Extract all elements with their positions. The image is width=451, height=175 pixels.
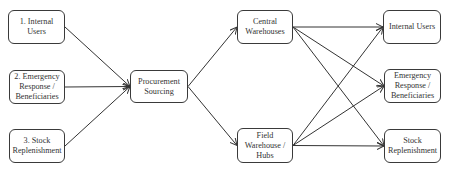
node-internal-users-destination: Internal Users: [383, 10, 441, 44]
node-stock-replenishment-destination: Stock Replenishment: [384, 129, 441, 163]
node-internal-users-source: 1. Internal Users: [8, 10, 65, 44]
node-central-warehouses: Central Warehouses: [237, 10, 293, 44]
node-stock-replenishment-source: 3. Stock Replenishment: [9, 129, 65, 163]
edge-field-to-stock-dst: [293, 146, 384, 147]
edge-central-to-emerg-dst: [293, 27, 384, 86]
node-procurement-sourcing: Procurement Sourcing: [130, 70, 188, 103]
edge-procure-to-field: [188, 87, 237, 146]
edge-internal-src-to-procure: [65, 27, 130, 87]
edge-stock-src-to-procure: [65, 87, 130, 147]
node-emergency-response-destination: Emergency Response / Beneficiaries: [384, 69, 441, 103]
node-field-warehouse-hubs: Field Warehouse / Hubs: [237, 128, 293, 163]
edge-field-to-emerg-dst: [293, 86, 384, 146]
edge-emerg-src-to-procure: [65, 87, 130, 88]
node-emergency-response-source: 2. Emergency Response / Beneficiaries: [9, 70, 65, 104]
edge-procure-to-central: [188, 27, 237, 87]
flow-diagram: 1. Internal Users 2. Emergency Response …: [0, 0, 451, 175]
